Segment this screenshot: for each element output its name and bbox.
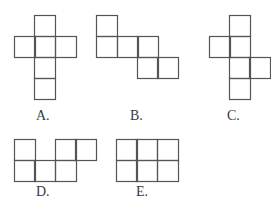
net-option-c (210, 16, 271, 100)
option-label-d: D. (36, 185, 50, 199)
net-square (56, 37, 77, 58)
net-square (230, 16, 251, 37)
net-square (35, 79, 56, 100)
net-square (158, 58, 179, 79)
cube-nets-figure: A. B. C. D. E. (0, 0, 271, 212)
net-option-d (15, 140, 97, 182)
net-square (230, 37, 251, 58)
nets-drawing (0, 0, 271, 212)
net-square (158, 140, 179, 161)
net-option-b (97, 16, 179, 79)
net-square (230, 58, 251, 79)
option-label-a: A. (36, 109, 50, 123)
net-square (210, 37, 231, 58)
net-square (137, 140, 158, 161)
net-square (138, 58, 159, 79)
net-square (35, 16, 56, 37)
net-option-e (117, 140, 179, 182)
net-square (56, 161, 77, 182)
net-square (158, 161, 179, 182)
net-option-a (15, 16, 77, 100)
net-square (35, 37, 56, 58)
net-square (15, 140, 36, 161)
net-square (138, 37, 159, 58)
net-square (35, 58, 56, 79)
net-square (117, 161, 138, 182)
net-square (56, 140, 77, 161)
option-label-b: B. (130, 109, 143, 123)
net-square (15, 161, 36, 182)
net-square (97, 37, 118, 58)
net-square (250, 58, 271, 79)
net-square (118, 37, 139, 58)
option-label-e: E. (136, 185, 148, 199)
net-square (15, 37, 36, 58)
net-square (230, 79, 251, 100)
net-square (35, 161, 56, 182)
net-square (97, 16, 118, 37)
net-square (76, 140, 97, 161)
net-square (137, 161, 158, 182)
option-label-c: C. (227, 109, 240, 123)
net-square (117, 140, 138, 161)
